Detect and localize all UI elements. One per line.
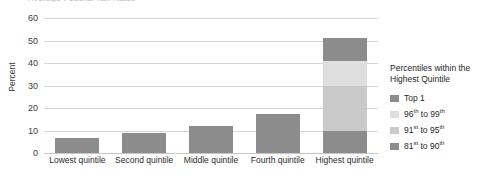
y-tick-label-10: 10 xyxy=(28,126,38,136)
chart-container: Average Federal Tax Rates Percent 60 50 … xyxy=(0,0,491,195)
bar-group: Lowest quintile Second quintile Middle q… xyxy=(44,18,378,153)
legend-swatch-top-1 xyxy=(390,95,399,102)
y-tick-label-0: 0 xyxy=(33,148,38,158)
bar-segment xyxy=(256,114,300,153)
chart-title: Average Federal Tax Rates xyxy=(28,0,136,2)
legend-item-81st-to-90th[interactable]: 81st to 90th xyxy=(390,141,491,151)
bar-slot-middle-quintile: Middle quintile xyxy=(178,18,245,153)
bar-segment xyxy=(323,61,367,86)
legend-item-top-1[interactable]: Top 1 xyxy=(390,93,491,103)
legend-swatch-91st-to-95th xyxy=(390,127,399,134)
y-tick-label-50: 50 xyxy=(28,36,38,46)
legend-label-81st-to-90th: 81st to 90th xyxy=(404,141,444,151)
bar-segment xyxy=(323,38,367,61)
plot-area: 60 50 40 30 20 10 0 Lowest quintile Seco… xyxy=(44,18,378,153)
legend-label-96th-to-99th: 96th to 99th xyxy=(404,109,445,119)
bar-fourth-quintile[interactable] xyxy=(256,114,300,153)
x-tick-label-middle-quintile: Middle quintile xyxy=(184,155,238,165)
legend-swatch-81st-to-90th xyxy=(390,143,399,150)
bar-slot-second-quintile: Second quintile xyxy=(111,18,178,153)
y-axis-title: Percent xyxy=(7,47,17,107)
bar-segment xyxy=(323,86,367,131)
bar-lowest-quintile[interactable] xyxy=(55,138,99,153)
x-tick-label-second-quintile: Second quintile xyxy=(115,155,173,165)
legend-item-96th-to-99th[interactable]: 96th to 99th xyxy=(390,109,491,119)
bar-segment xyxy=(323,131,367,154)
x-tick-label-highest-quintile: Highest quintile xyxy=(316,155,374,165)
x-tick-label-fourth-quintile: Fourth quintile xyxy=(251,155,305,165)
legend-swatch-96th-to-99th xyxy=(390,111,399,118)
x-tick-label-lowest-quintile: Lowest quintile xyxy=(49,155,105,165)
bar-slot-fourth-quintile: Fourth quintile xyxy=(244,18,311,153)
bar-slot-highest-quintile: Highest quintile xyxy=(311,18,378,153)
legend-title: Percentiles within the Highest Quintile xyxy=(390,63,486,85)
legend-label-91st-to-95th: 91st to 95th xyxy=(404,125,444,135)
bar-segment xyxy=(122,133,166,153)
bar-slot-lowest-quintile: Lowest quintile xyxy=(44,18,111,153)
legend: Percentiles within the Highest Quintile … xyxy=(390,63,491,157)
bar-segment xyxy=(189,126,233,153)
bar-second-quintile[interactable] xyxy=(122,133,166,153)
y-tick-label-60: 60 xyxy=(28,13,38,23)
legend-label-top-1: Top 1 xyxy=(404,93,425,103)
gridline-0: 0 xyxy=(44,153,378,154)
bar-highest-quintile[interactable] xyxy=(323,38,367,153)
bar-segment xyxy=(55,138,99,153)
legend-item-91st-to-95th[interactable]: 91st to 95th xyxy=(390,125,491,135)
y-tick-label-20: 20 xyxy=(28,103,38,113)
bar-middle-quintile[interactable] xyxy=(189,126,233,153)
y-tick-label-30: 30 xyxy=(28,81,38,91)
y-tick-label-40: 40 xyxy=(28,58,38,68)
